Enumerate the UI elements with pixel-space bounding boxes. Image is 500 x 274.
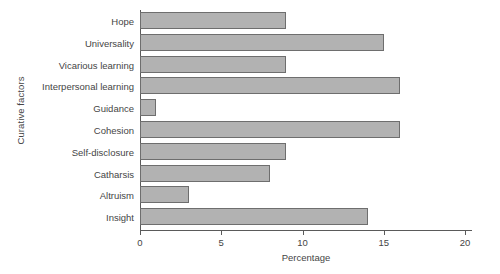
x-axis-tick-label: 15 bbox=[369, 237, 399, 248]
y-axis-tick-label: Hope bbox=[2, 16, 134, 27]
x-axis-tick bbox=[465, 231, 466, 235]
bar-cohesion bbox=[140, 121, 465, 138]
y-axis-tick-label: Catharsis bbox=[2, 169, 134, 180]
bar-altruism bbox=[140, 186, 465, 203]
x-axis-tick-label: 0 bbox=[125, 237, 155, 248]
y-axis-tick-label: Cohesion bbox=[2, 125, 134, 136]
x-axis-tick-label: 5 bbox=[206, 237, 236, 248]
x-axis-tick bbox=[303, 231, 304, 235]
x-axis-tick bbox=[221, 231, 222, 235]
bar-rect bbox=[140, 77, 400, 94]
x-axis-line bbox=[140, 230, 472, 231]
x-axis-tick bbox=[384, 231, 385, 235]
bar-interpersonal-learning bbox=[140, 77, 465, 94]
y-axis-tick-label: Vicarious learning bbox=[2, 60, 134, 71]
x-axis-title: Percentage bbox=[140, 252, 472, 263]
y-axis-tick-label: Insight bbox=[2, 212, 134, 223]
bar-insight bbox=[140, 208, 465, 225]
bar-rect bbox=[140, 186, 189, 203]
y-axis-tick-label: Interpersonal learning bbox=[2, 81, 134, 92]
x-axis-tick-label: 20 bbox=[450, 237, 480, 248]
x-axis-tick-label: 10 bbox=[288, 237, 318, 248]
bar-rect bbox=[140, 34, 384, 51]
bar-rect bbox=[140, 143, 286, 160]
y-axis-tick-label: Self-disclosure bbox=[2, 147, 134, 158]
bar-rect bbox=[140, 12, 286, 29]
y-axis-tick-label: Universality bbox=[2, 38, 134, 49]
bar-rect bbox=[140, 121, 400, 138]
y-axis-tick-label: Guidance bbox=[2, 103, 134, 114]
bar-rect bbox=[140, 208, 368, 225]
bar-hope bbox=[140, 12, 465, 29]
plot-area bbox=[140, 10, 465, 229]
y-axis-tick-label: Altruism bbox=[2, 190, 134, 201]
bar-self-disclosure bbox=[140, 143, 465, 160]
bar-catharsis bbox=[140, 165, 465, 182]
x-axis-tick bbox=[140, 231, 141, 235]
bar-vicarious-learning bbox=[140, 56, 465, 73]
bar-universality bbox=[140, 34, 465, 51]
bar-chart: Curative factors HopeUniversalityVicario… bbox=[0, 0, 500, 274]
y-axis-tick-labels: HopeUniversalityVicarious learningInterp… bbox=[0, 0, 134, 274]
bar-rect bbox=[140, 165, 270, 182]
bar-guidance bbox=[140, 99, 465, 116]
bar-rect bbox=[140, 99, 156, 116]
bar-rect bbox=[140, 56, 286, 73]
